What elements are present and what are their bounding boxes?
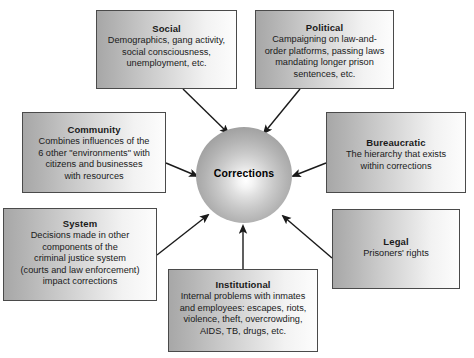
node-body-social: Demographics, gang activity, social cons… xyxy=(105,35,228,70)
node-box-community: Community Combines influences of the 6 o… xyxy=(22,112,166,193)
arrow-social-to-center xyxy=(183,89,228,133)
arrow-system-to-center xyxy=(157,215,208,255)
node-title-institutional: Institutional xyxy=(215,279,270,291)
node-body-system: Decisions made in other components of th… xyxy=(18,230,143,288)
node-body-political: Campaigning on law-and- order platforms,… xyxy=(262,34,388,80)
node-body-community: Combines influences of the 6 other "envi… xyxy=(35,136,153,182)
node-box-political: Political Campaigning on law-and- order … xyxy=(255,10,394,89)
node-title-social: Social xyxy=(152,23,181,35)
node-title-system: System xyxy=(63,218,97,230)
diagram-canvas: Corrections Social Demographics, gang ac… xyxy=(0,0,474,358)
center-node-corrections: Corrections xyxy=(196,127,292,223)
node-title-bureaucratic: Bureaucratic xyxy=(366,137,425,149)
node-box-social: Social Demographics, gang activity, soci… xyxy=(96,10,237,89)
node-box-institutional: Institutional Internal problems with inm… xyxy=(168,269,318,352)
arrow-legal-to-center xyxy=(283,216,332,258)
node-box-bureaucratic: Bureaucratic The hierarchy that exists w… xyxy=(326,112,466,193)
node-box-system: System Decisions made in other component… xyxy=(3,208,157,301)
node-title-legal: Legal xyxy=(383,236,408,248)
arrow-bureaucratic-to-center xyxy=(293,163,326,176)
node-title-community: Community xyxy=(67,124,120,136)
node-body-institutional: Internal problems with inmates and emplo… xyxy=(177,291,310,337)
node-box-legal: Legal Prisoners' rights xyxy=(332,209,460,289)
arrow-political-to-center xyxy=(264,89,300,133)
arrow-community-to-center xyxy=(166,163,197,176)
node-body-legal: Prisoners' rights xyxy=(360,248,432,260)
node-body-bureaucratic: The hierarchy that exists within correct… xyxy=(343,149,449,172)
node-title-political: Political xyxy=(306,22,343,34)
center-node-label: Corrections xyxy=(214,167,275,179)
